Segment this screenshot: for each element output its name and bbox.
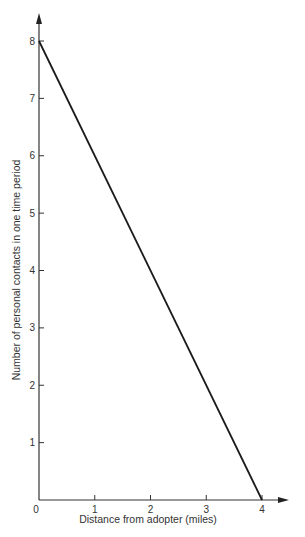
y-tick-label: 1 [29,437,35,448]
y-tick-label: 8 [29,36,35,47]
y-tick-label: 4 [29,265,35,276]
y-tick-label: 5 [29,208,35,219]
x-axis-arrow-icon [278,497,289,503]
x-tick-label: 4 [259,504,265,515]
chart: 12345678 01234 Distance from adopter (mi… [0,0,305,537]
y-axis-arrow-icon [36,13,42,24]
y-tick-label: 6 [29,150,35,161]
series-line [39,41,262,500]
x-tick-label: 0 [33,504,39,515]
y-tick-label: 7 [29,93,35,104]
y-tick-label: 3 [29,322,35,333]
data-series [39,41,262,500]
y-tick-label: 2 [29,380,35,391]
x-axis: 01234 [33,495,289,515]
y-axis: 12345678 [29,13,44,500]
y-axis-label: Number of personal contacts in one time … [10,160,22,381]
x-axis-label: Distance from adopter (miles) [79,513,217,525]
